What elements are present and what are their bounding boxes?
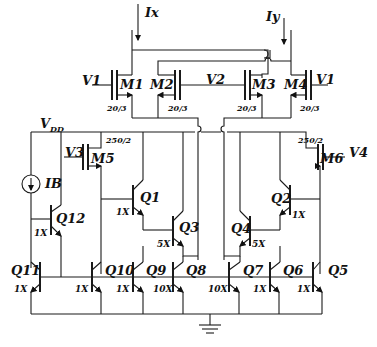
circuit-diagram: Ix Iy V1 M1 20/3 M2 20/3 V2 M3 20/3 M4 2…	[0, 0, 377, 347]
q9-label: Q9	[146, 264, 166, 277]
q2-label: Q2	[271, 192, 291, 205]
m5-label: M5	[91, 152, 114, 165]
q6-label: Q6	[283, 264, 303, 277]
m4-size: 20/3	[300, 104, 320, 112]
q4-label: Q4	[231, 222, 251, 235]
q1-size: 1X	[116, 208, 129, 217]
bjt-q9	[133, 246, 143, 314]
m2-label: M2	[150, 78, 173, 91]
ib-label: IB	[45, 177, 62, 190]
vdd-label: VDD	[40, 117, 64, 133]
m4-label: M4	[284, 78, 307, 91]
q1-label: Q1	[140, 191, 160, 204]
v1-right-label: V1	[316, 73, 335, 86]
q7-label: Q7	[243, 264, 263, 277]
v3-label: V3	[65, 146, 84, 159]
m1-label: M1	[120, 78, 143, 91]
v4-label: V4	[349, 146, 368, 159]
v1-left-label: V1	[82, 74, 101, 87]
schematic-wires	[0, 0, 377, 347]
ix-label: Ix	[145, 6, 159, 19]
m1-size: 20/3	[107, 104, 127, 112]
q11-label: Q11	[11, 264, 40, 277]
q6-size: 1X	[253, 285, 266, 294]
bjt-q7	[229, 256, 240, 314]
m6-label: M6	[320, 152, 343, 165]
q4-size: 5X	[252, 240, 265, 249]
q5-label: Q5	[328, 264, 348, 277]
ib-current-source-icon	[22, 175, 40, 193]
q2-size: 1X	[292, 211, 305, 220]
q7-size: 10X	[208, 285, 228, 294]
q12-label: Q12	[56, 212, 85, 225]
iy-label: Iy	[266, 10, 280, 23]
q8-size: 10X	[153, 285, 173, 294]
q9-size: 1X	[116, 285, 129, 294]
q3-size: 5X	[157, 240, 170, 249]
m3-size: 20/3	[237, 104, 257, 112]
m2-size: 20/3	[168, 104, 188, 112]
q11-size: 1X	[14, 285, 27, 294]
q10-size: 1X	[75, 285, 88, 294]
q3-label: Q3	[179, 221, 199, 234]
q8-label: Q8	[186, 264, 206, 277]
ground-icon	[199, 314, 221, 333]
m6-size: 250/2	[298, 136, 323, 144]
m5-size: 250/2	[106, 136, 131, 144]
q10-label: Q10	[105, 264, 134, 277]
q12-size: 1X	[34, 229, 47, 238]
v2-label: V2	[206, 73, 225, 86]
bjt-q8	[173, 256, 183, 314]
q5-size: 1X	[297, 285, 310, 294]
bjt-q6	[270, 246, 280, 314]
bjt-q10	[92, 262, 101, 314]
m3-label: M3	[252, 78, 275, 91]
